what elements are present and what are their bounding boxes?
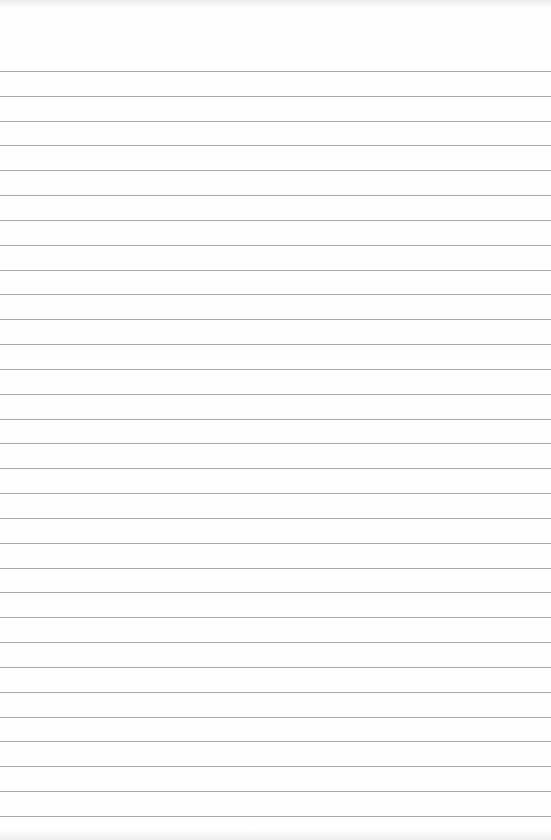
paper-top-edge: [0, 0, 551, 8]
ruled-line: [0, 369, 551, 370]
ruled-line: [0, 71, 551, 72]
ruled-line: [0, 121, 551, 122]
ruled-line: [0, 394, 551, 395]
ruled-line: [0, 617, 551, 618]
ruled-line: [0, 245, 551, 246]
ruled-line: [0, 816, 551, 817]
ruled-line: [0, 443, 551, 444]
ruled-line: [0, 592, 551, 593]
ruled-line: [0, 344, 551, 345]
ruled-line: [0, 468, 551, 469]
ruled-line: [0, 270, 551, 271]
ruled-line: [0, 518, 551, 519]
ruled-line: [0, 493, 551, 494]
ruled-line: [0, 96, 551, 97]
ruled-line: [0, 294, 551, 295]
ruled-line: [0, 667, 551, 668]
paper-bottom-edge: [0, 830, 551, 840]
ruled-line: [0, 791, 551, 792]
ruled-line: [0, 543, 551, 544]
ruled-line: [0, 195, 551, 196]
ruled-line: [0, 717, 551, 718]
ruled-line: [0, 568, 551, 569]
ruled-line: [0, 319, 551, 320]
ruled-line: [0, 642, 551, 643]
ruled-line: [0, 145, 551, 146]
ruled-line: [0, 692, 551, 693]
ruled-line: [0, 741, 551, 742]
lined-paper-sheet: [0, 0, 551, 840]
ruled-line: [0, 170, 551, 171]
ruled-line: [0, 220, 551, 221]
ruled-line: [0, 419, 551, 420]
ruled-line: [0, 766, 551, 767]
